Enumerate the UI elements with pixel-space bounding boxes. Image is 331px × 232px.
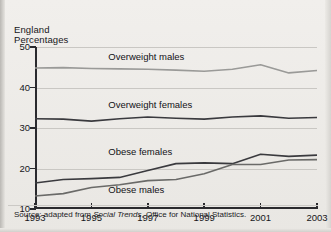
chart-figure: England Percentages 5040302010 199319951… (14, 24, 317, 204)
source-prefix: Source: adapted from (14, 210, 93, 219)
y-tick-label: 30 (8, 122, 30, 133)
figure-page: England Percentages 5040302010 199319951… (0, 0, 331, 232)
page-bottom-edge (0, 228, 331, 232)
x-tick-label: 2003 (306, 212, 327, 223)
source-divider (8, 205, 318, 206)
series-line (35, 160, 317, 196)
y-tick-label: 20 (8, 163, 30, 174)
series-label: Obese females (108, 146, 172, 157)
series-lines (35, 47, 317, 209)
source-publication: Social Trends (93, 210, 141, 219)
source-note: Source: adapted from Social Trends, Offi… (14, 210, 246, 219)
source-suffix: , Office for National Statistics. (141, 210, 246, 219)
series-line (35, 116, 317, 121)
series-line (35, 65, 317, 73)
plot-canvas: 5040302010 199319951997199920012003 Over… (35, 47, 317, 209)
page-right-edge (325, 0, 331, 232)
series-label: Overweight males (108, 51, 184, 62)
page-left-edge (0, 0, 5, 232)
x-tick-label: 2001 (250, 212, 271, 223)
y-tick-label: 40 (8, 82, 30, 93)
y-tick-label: 50 (8, 41, 30, 52)
series-label: Obese males (108, 184, 164, 195)
series-label: Overweight females (108, 99, 192, 110)
